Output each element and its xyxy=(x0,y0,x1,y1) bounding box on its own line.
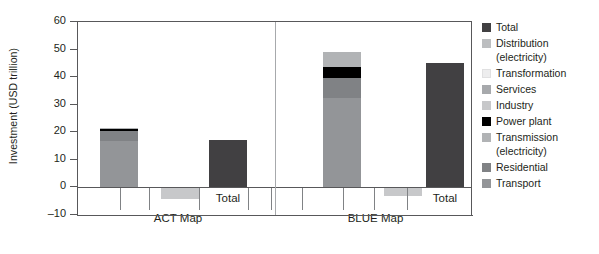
legend-swatch-icon xyxy=(482,133,491,142)
category-separator xyxy=(149,188,150,210)
legend-item-label: Transport xyxy=(496,176,541,190)
category-separator xyxy=(302,188,303,210)
y-tick-label: 40 xyxy=(32,70,66,81)
category-separator xyxy=(343,188,344,210)
bar-segment-total xyxy=(209,140,247,187)
y-tick-mark xyxy=(70,131,77,132)
blue-total-bar[interactable] xyxy=(426,63,464,187)
legend-item-label: Services xyxy=(496,82,536,96)
group-label-act: ACT Map xyxy=(88,212,268,224)
group-label-blue: BLUE Map xyxy=(283,212,468,224)
chart-legend: TotalDistribution (electricity)Transform… xyxy=(482,20,599,192)
legend-item[interactable]: Transmission (electricity) xyxy=(482,130,599,158)
total-label-act: Total xyxy=(201,192,255,204)
legend-swatch-icon xyxy=(482,163,491,172)
legend-item-label: Transmission (electricity) xyxy=(496,130,558,158)
bar-segment-power-plant xyxy=(323,67,361,78)
legend-swatch-icon xyxy=(482,179,491,188)
y-axis-title-text: Investment (USD trillion) xyxy=(7,48,19,164)
bar-segment-transport xyxy=(323,98,361,187)
y-tick-mark xyxy=(70,21,77,22)
legend-swatch-icon xyxy=(482,39,491,48)
bar-segment-total xyxy=(426,63,464,187)
y-tick-label: 0 xyxy=(32,180,66,191)
blue-stacked-bar[interactable] xyxy=(323,52,361,187)
chart-figure: Investment (USD trillion) 6050403020100–… xyxy=(0,0,599,254)
category-separator xyxy=(120,188,121,210)
bar-segment-transmission xyxy=(323,52,361,67)
legend-item-label: Transformation xyxy=(496,66,566,80)
total-label-blue: Total xyxy=(418,192,472,204)
act-stacked-bar[interactable] xyxy=(100,128,138,187)
y-tick-mark xyxy=(70,214,77,215)
legend-item[interactable]: Distribution (electricity) xyxy=(482,36,599,64)
y-tick-mark xyxy=(70,76,77,77)
y-tick-label: 60 xyxy=(32,15,66,26)
plot-area: TotalTotalACT MapBLUE Map xyxy=(77,21,472,215)
legend-swatch-icon xyxy=(482,23,491,32)
y-tick-label: 20 xyxy=(32,125,66,136)
bar-segment-residential xyxy=(323,78,361,97)
y-tick-label: 50 xyxy=(32,43,66,54)
category-separator xyxy=(199,188,200,210)
y-tick-mark xyxy=(70,104,77,105)
legend-item[interactable]: Total xyxy=(482,20,599,34)
bar-segment-savings xyxy=(161,188,199,199)
category-separator xyxy=(374,188,375,210)
plot-inner: TotalTotalACT MapBLUE Map xyxy=(78,22,471,215)
legend-item-label: Industry xyxy=(496,98,533,112)
act-savings-bar[interactable] xyxy=(161,188,199,199)
legend-swatch-icon xyxy=(482,101,491,110)
legend-item[interactable]: Services xyxy=(482,82,599,96)
y-axis-tick-labels: 6050403020100–10 xyxy=(28,0,66,254)
legend-item[interactable]: Transport xyxy=(482,176,599,190)
y-tick-mark xyxy=(70,186,77,187)
axes-bottom-frame xyxy=(77,215,473,216)
legend-item[interactable]: Residential xyxy=(482,160,599,174)
legend-item[interactable]: Industry xyxy=(482,98,599,112)
legend-swatch-icon xyxy=(482,69,491,78)
act-total-bar[interactable] xyxy=(209,140,247,187)
bar-segment-transmission xyxy=(100,128,138,129)
y-axis-title: Investment (USD trillion) xyxy=(2,0,24,212)
legend-item-label: Power plant xyxy=(496,114,551,128)
legend-swatch-icon xyxy=(482,85,491,94)
bar-segment-residential xyxy=(100,131,138,141)
y-tick-label: –10 xyxy=(32,208,66,219)
legend-item-label: Total xyxy=(496,20,518,34)
category-separator xyxy=(407,188,408,210)
legend-item-label: Residential xyxy=(496,160,548,174)
y-tick-label: 30 xyxy=(32,98,66,109)
group-divider xyxy=(275,22,276,216)
y-tick-label: 10 xyxy=(32,153,66,164)
bar-segment-savings xyxy=(384,188,422,196)
legend-item[interactable]: Transformation xyxy=(482,66,599,80)
legend-item[interactable]: Power plant xyxy=(482,114,599,128)
legend-item-label: Distribution (electricity) xyxy=(496,36,549,64)
legend-swatch-icon xyxy=(482,117,491,126)
y-tick-mark xyxy=(70,49,77,50)
category-separator xyxy=(271,188,272,210)
blue-savings-bar[interactable] xyxy=(384,188,422,196)
bar-segment-power-plant xyxy=(100,129,138,131)
bar-segment-transport xyxy=(100,141,138,187)
y-tick-mark xyxy=(70,159,77,160)
